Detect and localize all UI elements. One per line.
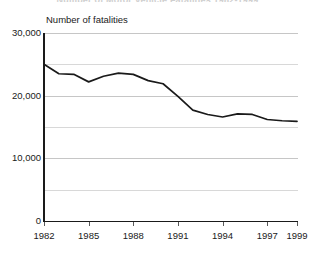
chart-figure: Number of Motor Vehicle Fatalities 1982-… xyxy=(0,0,315,255)
data-series-line xyxy=(0,0,315,255)
